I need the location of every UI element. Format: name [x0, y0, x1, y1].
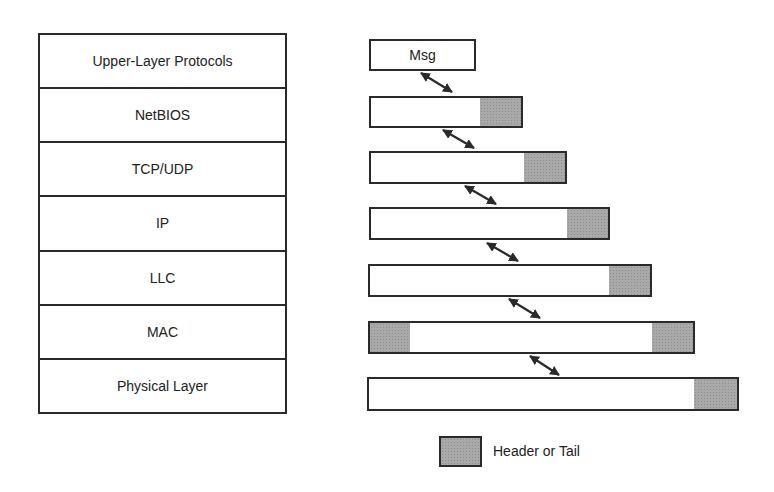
double-arrow-icon	[487, 243, 518, 261]
double-arrow-icon	[509, 299, 540, 318]
double-arrow-icon	[530, 356, 559, 375]
encapsulation-arrows	[0, 0, 774, 492]
double-arrow-icon	[465, 186, 496, 204]
legend-label: Header or Tail	[493, 443, 580, 459]
double-arrow-icon	[421, 73, 452, 92]
legend-swatch	[439, 436, 482, 467]
double-arrow-icon	[443, 130, 474, 148]
